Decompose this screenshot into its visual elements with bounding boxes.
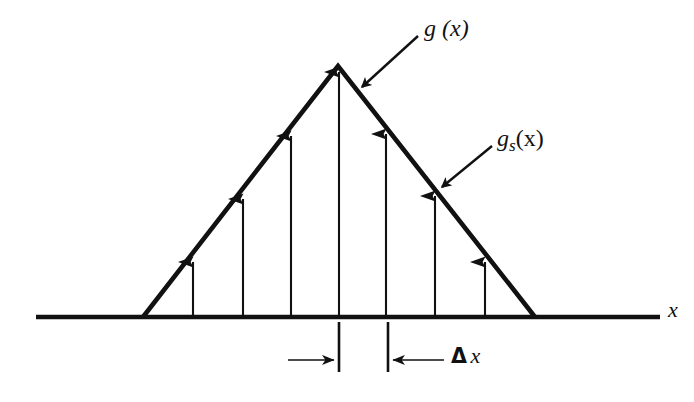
sampling-diagram-svg <box>0 0 694 402</box>
g-of-x-leader <box>362 36 418 87</box>
gs-of-x-leader-line <box>442 146 492 187</box>
delta-glyph: Δ <box>451 344 467 368</box>
x-axis-label-text: x <box>668 297 678 322</box>
g-of-x-label: g (x) <box>424 16 469 40</box>
delta-x-variable: x <box>471 343 481 368</box>
gs-of-x-base: g <box>497 125 509 151</box>
g-of-x-label-text: g (x) <box>424 15 469 41</box>
gs-of-x-leader <box>442 146 492 187</box>
delta-x-dimension <box>288 322 444 372</box>
x-axis-label: x <box>668 299 678 321</box>
g-of-x-leader-line <box>362 36 418 87</box>
figure-canvas: g (x) gs(x) x Δx <box>0 0 694 402</box>
delta-x-label: Δx <box>451 345 480 367</box>
gs-of-x-paren: (x) <box>516 125 544 151</box>
gs-of-x-label: gs(x) <box>497 126 544 154</box>
gs-of-x-subscript: s <box>509 136 516 155</box>
